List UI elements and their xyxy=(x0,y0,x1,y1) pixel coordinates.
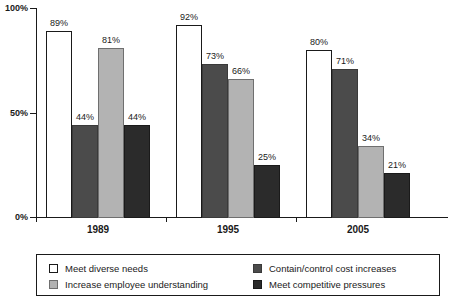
y-tick-mark xyxy=(30,113,36,114)
y-tick-label: 100% xyxy=(5,4,28,13)
bar-value-label: 25% xyxy=(247,153,287,162)
bar-value-label: 92% xyxy=(169,13,209,22)
y-axis-line xyxy=(36,8,37,217)
legend-label: Contain/control cost increases xyxy=(269,263,396,274)
y-tick-label: 50% xyxy=(10,109,28,118)
x-group-label: 1995 xyxy=(156,224,300,236)
bar-value-label: 66% xyxy=(221,67,261,76)
bar-value-label: 73% xyxy=(195,52,235,61)
bar xyxy=(228,79,254,218)
plot-area: 100%50%0% 89%44%81%44%92%73%66%25%80%71%… xyxy=(0,0,454,245)
x-tick-mark xyxy=(166,217,167,222)
x-tick-mark xyxy=(296,217,297,222)
bar-value-label: 34% xyxy=(351,134,391,143)
legend-label: Meet diverse needs xyxy=(65,263,148,274)
legend-item: Increase employee understanding xyxy=(49,279,208,290)
legend-item: Meet competitive pressures xyxy=(253,279,385,290)
bar xyxy=(72,125,98,218)
bar xyxy=(384,173,410,218)
legend-swatch-icon xyxy=(49,264,58,273)
y-tick-mark xyxy=(30,8,36,9)
bar-value-label: 71% xyxy=(325,57,365,66)
bar xyxy=(124,125,150,218)
legend-item: Contain/control cost increases xyxy=(253,263,396,274)
bar xyxy=(254,165,280,218)
x-group-label: 1989 xyxy=(26,224,170,236)
y-tick-label: 0% xyxy=(15,213,28,222)
bar-value-label: 81% xyxy=(91,36,131,45)
bar-value-label: 44% xyxy=(117,113,157,122)
legend: Meet diverse needsIncrease employee unde… xyxy=(36,254,440,296)
x-group-label: 2005 xyxy=(286,224,430,236)
bar xyxy=(332,69,358,218)
legend-swatch-icon xyxy=(253,264,262,273)
bar xyxy=(306,50,332,218)
legend-label: Increase employee understanding xyxy=(65,279,208,290)
legend-swatch-icon xyxy=(253,280,262,289)
bar xyxy=(98,48,124,218)
legend-item: Meet diverse needs xyxy=(49,263,148,274)
bar-value-label: 80% xyxy=(299,38,339,47)
bar xyxy=(358,146,384,218)
legend-swatch-icon xyxy=(49,280,58,289)
bar-value-label: 89% xyxy=(39,19,79,28)
bar-value-label: 21% xyxy=(377,161,417,170)
bar xyxy=(202,64,228,218)
bar xyxy=(46,31,72,218)
grouped-bar-chart: 100%50%0% 89%44%81%44%92%73%66%25%80%71%… xyxy=(0,0,454,301)
legend-label: Meet competitive pressures xyxy=(269,279,385,290)
x-tick-mark xyxy=(36,217,37,222)
